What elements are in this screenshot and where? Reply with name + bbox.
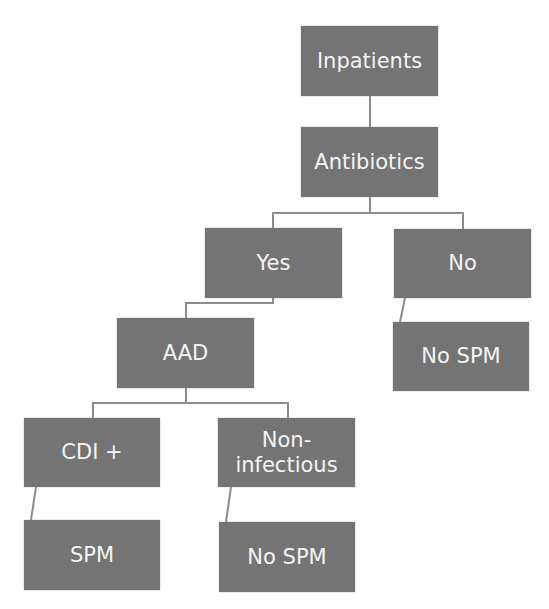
- node-label: No SPM: [421, 344, 500, 368]
- node-label: CDI +: [61, 440, 122, 464]
- edge-cdi-spm: [31, 487, 36, 520]
- node-inpatients: Inpatients: [301, 26, 438, 96]
- node-label: Inpatients: [317, 49, 422, 73]
- node-antibiotics: Antibiotics: [301, 127, 438, 197]
- edge-aad-cdi: [93, 388, 186, 418]
- node-no: No: [394, 229, 531, 298]
- node-no-spm-right: No SPM: [393, 322, 529, 391]
- node-label: AAD: [163, 341, 209, 365]
- node-label: Antibiotics: [314, 150, 424, 174]
- edge-no-nospm: [400, 298, 405, 322]
- node-label: SPM: [70, 543, 114, 567]
- edge-aad-noninfectious: [186, 403, 288, 418]
- edge-antibiotics-yes: [273, 197, 370, 228]
- node-label: No SPM: [247, 545, 326, 569]
- edge-yes-aad: [186, 298, 273, 318]
- node-yes: Yes: [205, 228, 342, 298]
- edge-noninfectious-nospm: [226, 487, 231, 522]
- node-spm: SPM: [24, 520, 160, 590]
- node-label: No: [448, 251, 477, 275]
- node-label: Non- infectious: [235, 428, 337, 476]
- node-cdi-plus: CDI +: [24, 418, 160, 487]
- node-non-infectious: Non- infectious: [218, 418, 355, 487]
- edge-antibiotics-no: [370, 213, 463, 229]
- node-no-spm-bottom: No SPM: [219, 522, 355, 592]
- node-label: Yes: [257, 251, 291, 275]
- connector-lines: [0, 0, 549, 609]
- node-aad: AAD: [117, 318, 254, 388]
